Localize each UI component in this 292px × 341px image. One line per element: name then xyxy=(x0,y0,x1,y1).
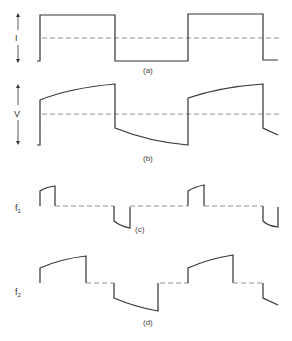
panel-b: V (b) xyxy=(14,84,280,163)
f2-pulse-negative xyxy=(263,283,278,305)
caption-c: (c) xyxy=(135,225,145,234)
panel-a: I (a) xyxy=(15,14,280,75)
panel-c: f1 (c) xyxy=(15,185,278,234)
axis-label-v: V xyxy=(14,109,20,119)
f2-pulse-positive xyxy=(188,255,233,283)
caption-b: (b) xyxy=(143,154,153,163)
f1-pulse-positive xyxy=(188,185,204,206)
panel-d: f2 (d) xyxy=(15,255,278,327)
caption-d: (d) xyxy=(143,318,153,327)
f1-pulse-negative xyxy=(114,206,130,228)
f2-pulse-positive xyxy=(40,256,86,283)
f1-pulse-negative xyxy=(263,206,278,227)
axis-label-f1: f1 xyxy=(15,203,22,214)
caption-a: (a) xyxy=(143,66,153,75)
axis-label-f2: f2 xyxy=(15,287,22,298)
current-waveform xyxy=(37,14,278,61)
f2-pulse-negative xyxy=(114,283,158,311)
voltage-waveform xyxy=(37,84,278,145)
axis-label-i: I xyxy=(15,33,18,43)
waveform-diagram: I (a) V (b) f1 (c) f2 (d) xyxy=(0,0,292,341)
f1-pulse-positive xyxy=(40,186,55,206)
